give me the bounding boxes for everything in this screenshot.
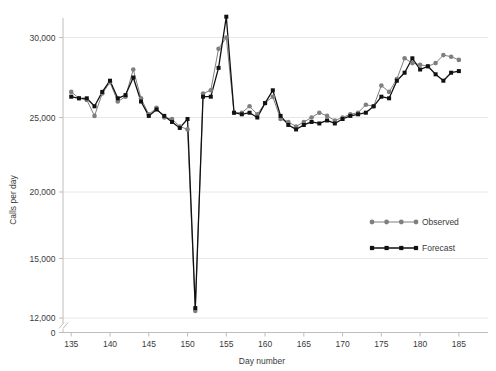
x-tick-label-135: 135 (64, 339, 78, 349)
x-tick-label-145: 145 (142, 339, 156, 349)
data-point-observed-135 (69, 90, 74, 95)
data-point-forecast-165 (302, 123, 306, 127)
data-point-forecast-141 (116, 96, 120, 100)
data-point-observed-154 (216, 46, 221, 51)
data-point-observed-138 (92, 114, 97, 119)
data-point-forecast-155 (224, 15, 228, 19)
data-point-observed-180 (418, 62, 423, 67)
y-tick-label-25000: 25,000 (30, 113, 56, 123)
data-point-observed-176 (387, 90, 392, 95)
data-point-forecast-179 (410, 56, 414, 60)
data-point-forecast-152 (201, 95, 205, 99)
y-tick-label-12000: 12,000 (30, 313, 56, 323)
data-point-forecast-138 (93, 104, 97, 108)
data-point-forecast-175 (379, 95, 383, 99)
legend-marker-observed-3 (414, 220, 419, 225)
data-point-forecast-171 (348, 114, 352, 118)
legend-marker-observed-1 (384, 220, 389, 225)
x-tick-label-175: 175 (374, 339, 388, 349)
data-point-forecast-144 (139, 100, 143, 104)
y-tick-label-20000: 20,000 (30, 187, 56, 197)
x-axis-title: Day number (239, 356, 285, 366)
data-point-forecast-137 (85, 96, 89, 100)
y-tick-label-15000: 15,000 (30, 254, 56, 264)
y-tick-label-0: 0 (51, 328, 56, 338)
data-point-forecast-183 (441, 79, 445, 83)
data-point-forecast-151 (193, 306, 197, 310)
data-point-forecast-140 (108, 79, 112, 83)
data-point-forecast-146 (155, 108, 159, 112)
data-point-forecast-145 (147, 114, 151, 118)
data-point-forecast-162 (279, 114, 283, 118)
chart-canvas: 012,00015,00020,00025,00030,000 13514014… (0, 0, 496, 371)
data-point-forecast-177 (395, 79, 399, 83)
data-point-observed-168 (325, 114, 330, 119)
data-point-forecast-178 (403, 71, 407, 75)
data-point-forecast-170 (341, 117, 345, 121)
data-point-forecast-142 (124, 93, 128, 97)
legend-marker-forecast-0 (370, 246, 374, 250)
data-point-forecast-182 (434, 72, 438, 76)
data-point-forecast-181 (426, 64, 430, 68)
y-axis-title: Calls per day (8, 174, 18, 224)
data-point-forecast-173 (364, 111, 368, 115)
data-point-observed-185 (457, 58, 462, 63)
data-point-observed-178 (402, 56, 407, 61)
data-point-forecast-174 (372, 104, 376, 108)
legend-marker-forecast-2 (399, 246, 403, 250)
legend-marker-forecast-3 (414, 246, 418, 250)
data-point-forecast-136 (77, 96, 81, 100)
data-point-forecast-147 (162, 114, 166, 118)
data-point-forecast-143 (131, 76, 135, 80)
data-point-observed-143 (131, 67, 136, 72)
data-point-forecast-163 (286, 123, 290, 127)
x-tick-label-140: 140 (103, 339, 117, 349)
legend-marker-observed-2 (399, 220, 404, 225)
data-point-forecast-168 (325, 118, 329, 122)
data-point-observed-155 (224, 35, 229, 40)
x-tick-label-180: 180 (413, 339, 427, 349)
data-point-forecast-172 (356, 112, 360, 116)
legend-marker-forecast-1 (385, 246, 389, 250)
legend-label-observed: Observed (422, 217, 459, 227)
data-point-forecast-169 (333, 121, 337, 125)
calls-per-day-chart: 012,00015,00020,00025,00030,000 13514014… (0, 0, 496, 371)
data-point-forecast-157 (240, 112, 244, 116)
data-point-forecast-135 (69, 95, 73, 99)
data-point-forecast-160 (263, 101, 267, 105)
data-point-forecast-185 (457, 69, 461, 73)
data-point-observed-175 (379, 83, 384, 88)
x-tick-label-170: 170 (335, 339, 349, 349)
data-point-forecast-148 (170, 120, 174, 124)
data-point-observed-184 (449, 54, 454, 59)
data-point-forecast-167 (317, 121, 321, 125)
legend-label-forecast: Forecast (422, 243, 456, 253)
data-point-forecast-184 (449, 71, 453, 75)
data-point-forecast-164 (294, 127, 298, 131)
data-point-forecast-139 (100, 90, 104, 94)
data-point-forecast-166 (310, 120, 314, 124)
data-point-observed-179 (410, 61, 415, 66)
data-point-observed-166 (309, 115, 314, 120)
x-tick-label-165: 165 (297, 339, 311, 349)
data-point-forecast-156 (232, 111, 236, 115)
data-point-observed-150 (185, 127, 190, 132)
data-point-forecast-159 (255, 116, 259, 120)
data-point-forecast-149 (178, 126, 182, 130)
data-point-observed-161 (271, 94, 276, 99)
x-tick-label-155: 155 (219, 339, 233, 349)
data-point-forecast-161 (271, 88, 275, 92)
data-point-observed-183 (441, 53, 446, 58)
data-point-observed-153 (209, 88, 214, 93)
data-point-forecast-176 (387, 96, 391, 100)
x-tick-label-150: 150 (180, 339, 194, 349)
data-point-observed-158 (247, 104, 252, 109)
x-tick-label-185: 185 (452, 339, 466, 349)
data-point-forecast-180 (418, 68, 422, 72)
legend-marker-observed-0 (370, 220, 375, 225)
data-point-observed-173 (364, 102, 369, 107)
data-point-observed-182 (433, 61, 438, 66)
chart-background (0, 0, 496, 371)
data-point-observed-167 (317, 110, 322, 115)
data-point-forecast-153 (209, 95, 213, 99)
